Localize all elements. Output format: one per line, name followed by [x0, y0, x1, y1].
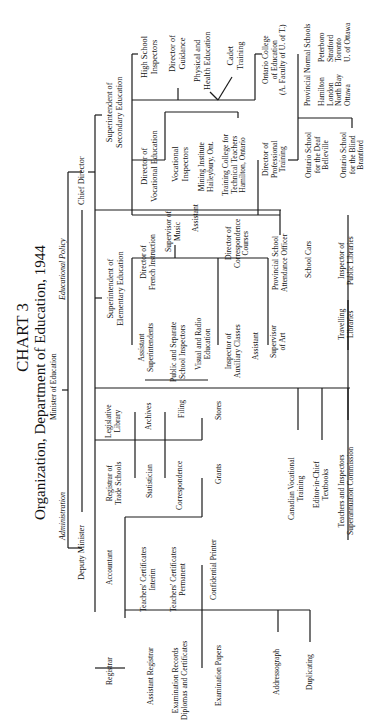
node-cadet-training: Cadet Training	[226, 41, 245, 70]
node-inspector-auxiliary: Inspector of Auxiliary Classes	[225, 324, 242, 378]
node-canadian-vocational: Canadian Vocational Training	[288, 457, 305, 520]
node-duplicating: Duplicating	[306, 654, 315, 690]
node-legislative-library: Legislative Library	[105, 404, 122, 438]
node-school-blind: Ontario School for the Blind Brantford	[340, 132, 366, 178]
node-music-assistant: Assistant	[192, 204, 201, 232]
node-sup-secondary: Superintendent of Secondary Education	[105, 77, 124, 148]
node-statistician: Statistician	[146, 464, 155, 498]
node-certs-permanent: Teachers' Certificates Permanent	[170, 547, 187, 612]
node-ontario-college: Ontario College of Education (A. Faculty…	[262, 24, 288, 95]
node-stores: Stores	[215, 401, 224, 420]
node-sup-music: Supervisor of Music	[165, 211, 182, 252]
node-correspondence: Correspondence	[176, 461, 185, 510]
node-travelling-libraries: Travelling Libraries	[338, 309, 355, 340]
node-visual-radio: Visual and Radio Education	[195, 318, 212, 370]
label-educational-policy: Educational Policy	[58, 238, 68, 300]
node-editor-textbooks: Editor-in-Chief Textbooks	[313, 461, 330, 508]
node-supervisor-art: Supervisor of Art	[270, 325, 287, 358]
node-school-deaf: Ontario School for the Deaf Belleville	[305, 132, 331, 178]
chart-title: CHART 3	[14, 303, 32, 372]
node-registrar: Registrar	[106, 657, 115, 685]
node-auxiliary-assistant: Assistant	[252, 332, 261, 360]
node-vocational-inspectors: Vocational Inspectors	[171, 146, 190, 182]
org-chart: CHART 3 Organization, Department of Educ…	[0, 0, 369, 727]
node-exam-records: Examination Records Diplomas and Certifi…	[172, 641, 189, 720]
node-dir-french: Director of French Instruction	[140, 234, 157, 290]
node-chief-director: Chief Director	[77, 156, 87, 205]
node-asst-superintendents: Assistant Superintendents	[138, 323, 155, 372]
node-filing: Filing	[178, 400, 187, 418]
node-asst-registrar: Assistant Registrar	[147, 647, 156, 705]
node-school-cars: School Cars	[305, 241, 314, 278]
node-normal-col2: Peterboro Stratford Toronto U. of Ottawa	[318, 23, 352, 62]
node-mining-institute: Mining Institute Haileybury, Ont.	[198, 141, 215, 192]
node-dir-vocational: Director of Vocational Education	[140, 130, 159, 202]
node-accountant: Accountant	[106, 550, 115, 585]
node-grants: Grants	[215, 464, 224, 484]
node-dir-professional: Director of Professional Training	[262, 140, 288, 178]
label-administration: Administration	[58, 492, 68, 540]
node-physical-health: Physical and Health Education	[193, 32, 212, 90]
node-archives: Archives	[145, 403, 154, 430]
node-deputy-minister: Deputy Minister	[77, 525, 87, 580]
node-confidential-printer: Confidential Printer	[210, 539, 219, 600]
node-addressograph: Addressograph	[273, 649, 282, 695]
node-exam-papers: Examination Papers	[215, 645, 224, 706]
node-normal-col1: Hamilton London North Bay Ottawa	[318, 74, 352, 106]
node-certs-interim: Teachers' Certificates Interim	[140, 547, 157, 612]
node-superannuation: Teachers and Inspectors Superannuation C…	[338, 447, 355, 535]
node-registrar-trade: Registrar of Trade Schools	[106, 462, 123, 505]
node-attendance-officer: Provincial School Attendance Officer	[272, 234, 289, 292]
node-minister: Minister of Education	[50, 353, 59, 420]
node-sup-elementary: Superintendent of Elementary Education	[106, 251, 125, 326]
node-public-separate: Public and Separate School Inspectors	[170, 322, 187, 382]
node-dir-correspondence: Director of Correspondence Courses	[225, 219, 251, 268]
node-provincial-normal: Provincial Normal Schools	[304, 24, 313, 106]
node-high-school-inspectors: High School Inspectors	[140, 36, 159, 78]
chart-subtitle: Organization, Department of Education, 1…	[32, 245, 48, 520]
node-director-guidance: Director of Guidance	[168, 35, 187, 72]
node-training-college: Training College for Technical Teachers …	[222, 134, 248, 196]
node-inspector-libraries: Inspector of Public Libraries	[338, 236, 355, 285]
